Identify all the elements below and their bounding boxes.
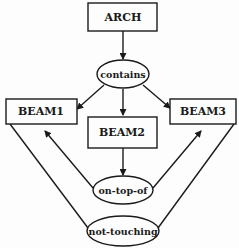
semantic-network-diagram: ARCH contains BEAM1 BEAM2 BEAM3 on-top-o… [0,0,239,248]
label-not-touching: not-touching [88,226,157,237]
edge-contains-beam1 [77,85,104,109]
label-on-top-of: on-top-of [99,185,149,196]
label-beam3: BEAM3 [180,105,226,118]
edge-beam3-nottouching [158,124,234,228]
edge-contains-beam3 [143,85,170,108]
label-beam2: BEAM2 [99,126,145,139]
edge-beam1-nottouching [10,124,88,228]
label-arch: ARCH [104,11,142,24]
label-contains: contains [100,69,145,80]
diagram-svg: ARCH contains BEAM1 BEAM2 BEAM3 on-top-o… [0,0,239,248]
label-beam1: BEAM1 [18,105,64,118]
